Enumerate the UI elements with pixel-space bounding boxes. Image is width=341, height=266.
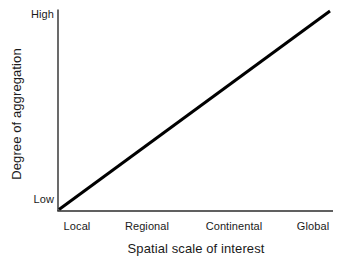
chart-figure: High Low Local Regional Continental Glob…	[0, 0, 341, 266]
y-axis-label-low: Low	[34, 194, 54, 205]
chart-plot-area	[0, 0, 341, 266]
x-axis-title: Spatial scale of interest	[128, 242, 265, 255]
y-axis-title: Degree of aggregation	[10, 48, 23, 179]
data-line-series-1	[59, 11, 330, 210]
x-axis-tick-regional: Regional	[125, 221, 169, 232]
x-axis-tick-continental: Continental	[206, 221, 263, 232]
x-axis-tick-global: Global	[297, 221, 329, 232]
y-axis-label-high: High	[31, 9, 54, 20]
x-axis-tick-local: Local	[64, 221, 91, 232]
